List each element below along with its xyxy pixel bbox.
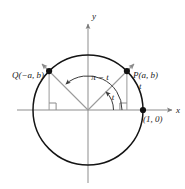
point-one-zero-label: (1, 0) bbox=[143, 114, 163, 124]
right-angle-marker-q bbox=[49, 103, 56, 110]
point-one-zero-dot bbox=[140, 107, 146, 113]
arc-t-label: t bbox=[139, 81, 142, 91]
angle-t-label: t bbox=[112, 92, 115, 102]
point-p-label: P(a, b) bbox=[132, 70, 158, 80]
point-q-dot bbox=[46, 68, 52, 74]
right-angle-marker-p bbox=[120, 103, 127, 110]
x-axis-label: x bbox=[175, 105, 180, 115]
angle-pi-minus-t-label: π − t bbox=[91, 72, 109, 82]
point-q-label: Q(−a, b) bbox=[12, 70, 44, 80]
unit-circle-diagram: y x P(a, b) Q(−a, b) (1, 0) t π − t t bbox=[0, 0, 185, 189]
unit-circle-figure: y x P(a, b) Q(−a, b) (1, 0) t π − t t bbox=[0, 0, 185, 189]
point-p-dot bbox=[124, 68, 130, 74]
y-axis-label: y bbox=[91, 11, 96, 21]
